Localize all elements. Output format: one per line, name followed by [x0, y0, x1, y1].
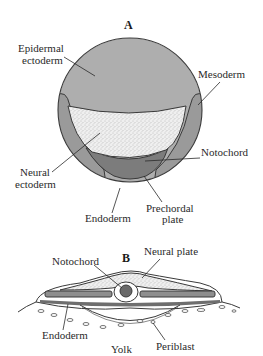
panel-a-title: A: [124, 18, 133, 32]
label-epidermal-ectoderm-1: Epidermal: [18, 42, 64, 54]
label-prechordal-plate-2: plate: [162, 213, 183, 225]
gastrula-sphere: [56, 38, 205, 196]
label-endoderm-a: Endoderm: [85, 212, 131, 224]
label-neural-plate: Neural plate: [144, 245, 198, 257]
label-neural-ectoderm-2: ectoderm: [15, 178, 56, 190]
label-neural-ectoderm-1: Neural: [20, 166, 50, 178]
mesoderm-bar-left: [45, 291, 112, 297]
label-yolk: Yolk: [111, 343, 132, 355]
panel-a: A Epidermal ectoderm Mesoderm Notochord: [15, 18, 249, 225]
label-notochord-b: Notochord: [52, 255, 100, 267]
label-mesoderm: Mesoderm: [198, 68, 245, 80]
label-endoderm-b: Endoderm: [42, 329, 88, 341]
panel-b: B: [18, 245, 240, 355]
label-periblast: Periblast: [156, 340, 195, 352]
notochord-b: [120, 285, 132, 297]
embryo-diagram: A Epidermal ectoderm Mesoderm Notochord: [0, 0, 263, 356]
mesoderm-bar-right: [140, 291, 215, 297]
label-notochord: Notochord: [201, 146, 249, 158]
label-epidermal-ectoderm-2: ectoderm: [22, 54, 63, 66]
panel-b-title: B: [122, 251, 130, 265]
